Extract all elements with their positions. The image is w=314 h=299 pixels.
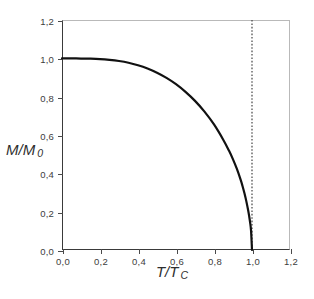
data-layer	[0, 0, 314, 299]
magnetization-chart: M/M0 T/TC 0,00,20,40,60,81,01,2 0,00,20,…	[0, 0, 314, 299]
magnetization-curve	[62, 58, 252, 250]
